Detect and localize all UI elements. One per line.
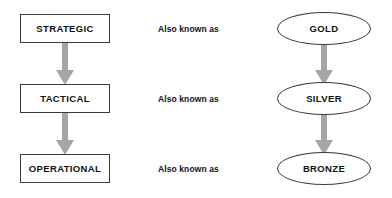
node-silver: SILVER xyxy=(277,82,371,115)
node-silver-label: SILVER xyxy=(306,94,342,104)
node-tactical: TACTICAL xyxy=(20,84,110,113)
arrow-gold-to-silver-icon xyxy=(313,41,335,86)
node-operational-label: OPERATIONAL xyxy=(29,164,101,174)
node-gold-label: GOLD xyxy=(310,24,339,34)
arrow-strategic-to-tactical-icon xyxy=(54,41,76,86)
connector-label-tactical-silver: Also known as xyxy=(158,95,248,104)
node-strategic-label: STRATEGIC xyxy=(36,24,93,34)
connector-label-operational-bronze: Also known as xyxy=(158,165,248,174)
node-tactical-label: TACTICAL xyxy=(40,94,90,104)
hierarchy-diagram: STRATEGIC TACTICAL OPERATIONAL Also know… xyxy=(0,0,392,198)
node-operational: OPERATIONAL xyxy=(20,154,110,183)
connector-label-strategic-gold: Also known as xyxy=(158,25,248,34)
arrow-silver-to-bronze-icon xyxy=(313,111,335,156)
node-strategic: STRATEGIC xyxy=(20,14,110,43)
node-gold: GOLD xyxy=(277,12,371,45)
node-bronze: BRONZE xyxy=(277,152,371,185)
arrow-tactical-to-operational-icon xyxy=(54,111,76,156)
node-bronze-label: BRONZE xyxy=(303,164,345,174)
